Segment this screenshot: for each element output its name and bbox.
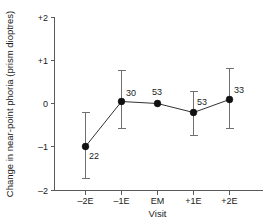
x-axis-title: Visit bbox=[149, 208, 167, 219]
chart-figure: Change in near-point phoria (prism diopt… bbox=[0, 0, 280, 222]
y-tick-label: +2 bbox=[38, 13, 48, 23]
data-point-marker bbox=[154, 100, 161, 107]
data-point-label: 22 bbox=[89, 151, 99, 161]
data-point-marker bbox=[226, 96, 233, 103]
y-tick-label: –1 bbox=[38, 142, 48, 152]
data-point-marker bbox=[190, 109, 197, 116]
x-tick-label: –1E bbox=[113, 196, 129, 206]
x-tick-label: EM bbox=[151, 196, 165, 206]
y-tick-label: –2 bbox=[38, 186, 48, 196]
data-point-label: 53 bbox=[152, 87, 162, 97]
x-tick-label: +1E bbox=[185, 196, 201, 206]
data-point-marker bbox=[82, 143, 89, 150]
y-tick-label: +1 bbox=[38, 56, 48, 66]
data-point-label: 53 bbox=[197, 97, 207, 107]
data-point-labels: 22 30 53 53 33 bbox=[89, 85, 244, 161]
x-tick-label: –2E bbox=[77, 196, 93, 206]
y-axis-ticks: +2 +1 0 –1 –2 bbox=[38, 13, 55, 196]
y-axis-title: Change in near-point phoria (prism diopt… bbox=[4, 11, 15, 197]
data-point-label: 30 bbox=[126, 88, 136, 98]
y-tick-label: 0 bbox=[43, 99, 48, 109]
x-tick-label: +2E bbox=[221, 196, 237, 206]
phoria-line-chart: Change in near-point phoria (prism diopt… bbox=[0, 0, 280, 222]
data-point-marker bbox=[118, 98, 125, 105]
x-axis-ticks: –2E –1E EM +1E +2E bbox=[77, 191, 237, 207]
data-point-label: 33 bbox=[234, 85, 244, 95]
